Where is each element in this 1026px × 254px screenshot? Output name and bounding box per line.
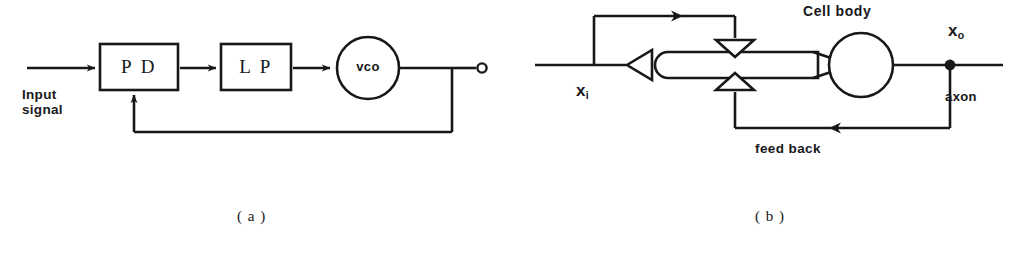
output-terminal-open-circle <box>477 63 486 72</box>
input-variable-label: xi <box>576 82 589 102</box>
input-signal-line1: Input <box>22 87 57 102</box>
output-variable-label: xo <box>948 22 964 42</box>
lower-synapse-triangle <box>716 73 754 90</box>
caption-b: ( b ) <box>755 208 785 224</box>
upper-synapse-triangle <box>716 40 754 57</box>
output-variable-subscript: o <box>958 29 964 41</box>
figure-canvas: Input signal P D L P vco ( a ) <box>0 0 1026 254</box>
vco-block-label: vco <box>336 44 400 90</box>
input-signal-line2: signal <box>22 102 63 117</box>
axon-label: axon <box>945 90 977 104</box>
axon-junction-dot <box>945 60 956 71</box>
cell-body-label: Cell body <box>803 4 871 19</box>
input-synapse-triangle <box>627 50 652 80</box>
caption-a: ( a ) <box>237 208 266 224</box>
panel-b-neuron-diagram: Cell body xi xo axon feed back ( b ) <box>513 0 1026 254</box>
output-variable-base: x <box>948 21 958 40</box>
cell-body-circle <box>829 33 893 97</box>
panel-a-pll-diagram: Input signal P D L P vco ( a ) <box>0 0 513 254</box>
input-variable-subscript: i <box>586 89 589 101</box>
lp-block-label: L P <box>221 44 291 90</box>
feedback-label: feed back <box>755 142 821 157</box>
input-variable-base: x <box>576 81 586 100</box>
input-signal-label: Input signal <box>22 88 63 117</box>
dendrite-to-soma-upper <box>813 52 831 58</box>
pd-block-label: P D <box>100 44 178 90</box>
dendrite-to-soma-lower <box>813 72 831 78</box>
